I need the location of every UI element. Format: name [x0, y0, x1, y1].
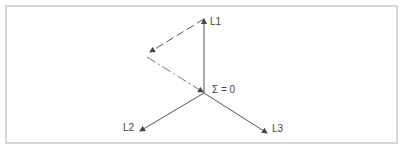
dashed-l2-translate	[150, 19, 204, 52]
vector-l3	[204, 93, 267, 133]
phasor-diagram: L1 L2 L3 Σ = 0	[0, 0, 404, 150]
vector-l2	[140, 93, 204, 131]
label-sum-zero: Σ = 0	[212, 84, 236, 95]
label-l3: L3	[272, 123, 284, 134]
label-l1: L1	[210, 16, 222, 27]
label-l2: L2	[123, 122, 135, 133]
dashdot-l3-translate	[147, 57, 203, 92]
